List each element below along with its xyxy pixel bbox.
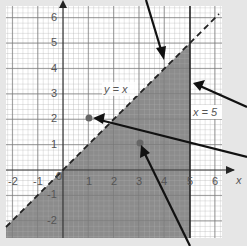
svg-text:-2: -2 (47, 214, 57, 226)
label-y-equals-x: y = x (103, 83, 128, 95)
point-1-2 (86, 115, 93, 122)
svg-text:-2: -2 (8, 175, 18, 187)
label-x-equals-5: x = 5 (192, 106, 218, 118)
svg-text:2: 2 (51, 112, 57, 124)
svg-text:6: 6 (212, 175, 218, 187)
coordinate-plane: -2 -1 0 1 2 3 4 5 6 6 5 4 3 2 1 -1 -2 x … (0, 0, 247, 246)
svg-text:4: 4 (51, 62, 57, 74)
svg-text:6: 6 (51, 11, 57, 23)
svg-text:-1: -1 (47, 188, 57, 200)
svg-text:2: 2 (111, 175, 117, 187)
svg-text:4: 4 (161, 175, 167, 187)
svg-text:-1: -1 (33, 175, 43, 187)
svg-text:3: 3 (136, 175, 142, 187)
y-axis-arrow-icon (59, 0, 67, 8)
svg-text:5: 5 (51, 36, 57, 48)
svg-text:x: x (235, 174, 242, 186)
svg-text:3: 3 (51, 87, 57, 99)
svg-text:1: 1 (86, 175, 92, 187)
graph-figure: -2 -1 0 1 2 3 4 5 6 6 5 4 3 2 1 -1 -2 x … (0, 0, 247, 246)
svg-text:1: 1 (51, 138, 57, 150)
point-3-1 (137, 140, 144, 147)
svg-text:0: 0 (56, 170, 62, 182)
svg-text:5: 5 (187, 175, 193, 187)
x-axis-arrow-icon (226, 166, 235, 174)
